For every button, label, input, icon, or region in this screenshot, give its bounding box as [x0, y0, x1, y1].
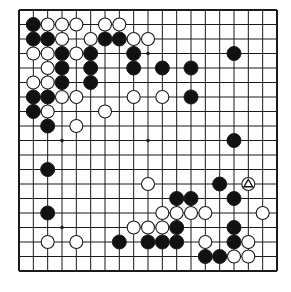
- black-stone: [84, 61, 98, 75]
- white-stone: [142, 33, 155, 46]
- white-stone: [56, 91, 69, 104]
- black-stone: [112, 235, 126, 249]
- white-stone: [41, 76, 54, 89]
- black-stone: [41, 206, 55, 220]
- black-stone: [227, 221, 241, 235]
- white-stone: [70, 120, 83, 133]
- black-stone: [170, 221, 184, 235]
- black-stone: [41, 119, 55, 133]
- black-stone: [98, 32, 112, 46]
- white-stone: [99, 18, 112, 31]
- star-point: [146, 139, 150, 143]
- white-stone: [70, 18, 83, 31]
- black-stone: [213, 250, 227, 264]
- black-stone: [184, 90, 198, 104]
- white-stone: [127, 91, 140, 104]
- black-stone: [41, 32, 55, 46]
- black-stone: [84, 76, 98, 90]
- white-stone: [41, 236, 54, 249]
- white-stone: [185, 207, 198, 220]
- white-stone: [199, 236, 212, 249]
- white-stone: [142, 178, 155, 191]
- black-stone: [227, 47, 241, 61]
- black-stone: [84, 47, 98, 61]
- white-stone: [27, 76, 40, 89]
- star-point: [60, 226, 64, 230]
- white-stone: [156, 91, 169, 104]
- black-stone: [55, 47, 69, 61]
- go-board-diagram: [0, 0, 291, 292]
- white-stone: [99, 105, 112, 118]
- black-stone: [141, 235, 155, 249]
- black-stone: [55, 61, 69, 75]
- white-stone: [242, 236, 255, 249]
- white-stone: [142, 221, 155, 234]
- white-stone: [84, 33, 97, 46]
- go-board: [0, 0, 291, 292]
- star-point: [146, 52, 150, 56]
- white-stone: [228, 250, 241, 263]
- white-stone: [256, 207, 269, 220]
- white-stone: [156, 221, 169, 234]
- white-stone: [70, 91, 83, 104]
- white-stone: [56, 18, 69, 31]
- white-stone: [41, 105, 54, 118]
- white-stone: [56, 33, 69, 46]
- white-stone: [199, 207, 212, 220]
- white-stone: [242, 250, 255, 263]
- black-stone: [213, 177, 227, 191]
- white-stone: [70, 236, 83, 249]
- black-stone: [26, 18, 40, 32]
- white-stone: [113, 18, 126, 31]
- star-point: [60, 139, 64, 143]
- black-stone: [184, 192, 198, 206]
- black-stone: [227, 134, 241, 148]
- black-stone: [26, 32, 40, 46]
- black-stone: [155, 235, 169, 249]
- white-stone: [156, 207, 169, 220]
- black-stone: [198, 250, 212, 264]
- black-stone: [41, 163, 55, 177]
- black-stone: [55, 76, 69, 90]
- black-stone: [26, 105, 40, 119]
- white-stone: [127, 221, 140, 234]
- black-stone: [127, 61, 141, 75]
- black-stone: [170, 192, 184, 206]
- white-stone: [41, 47, 54, 60]
- black-stone: [170, 235, 184, 249]
- black-stone: [127, 47, 141, 61]
- black-stone: [41, 90, 55, 104]
- black-stone: [184, 61, 198, 75]
- black-stone: [155, 61, 169, 75]
- white-stone: [27, 47, 40, 60]
- white-stone: [41, 62, 54, 75]
- white-stone: [170, 207, 183, 220]
- white-stone: [127, 33, 140, 46]
- white-stone: [41, 18, 54, 31]
- black-stone: [227, 192, 241, 206]
- black-stone: [227, 235, 241, 249]
- black-stone: [26, 90, 40, 104]
- black-stone: [112, 32, 126, 46]
- white-stone: [70, 47, 83, 60]
